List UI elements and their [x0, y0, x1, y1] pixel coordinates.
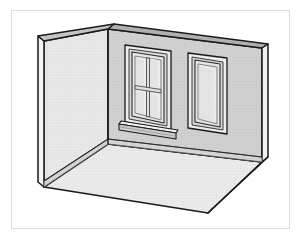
left-wall-cut-edge: [38, 36, 44, 187]
room-scene-svg: Interior room corner with two windows: [0, 0, 301, 239]
right-window[interactable]: [188, 53, 227, 134]
left-window[interactable]: [119, 45, 178, 139]
room-illustration: Interior room corner with two windows: [0, 0, 301, 239]
right-window-glass: [198, 64, 217, 124]
right-wall-cut-edge: [262, 44, 268, 162]
